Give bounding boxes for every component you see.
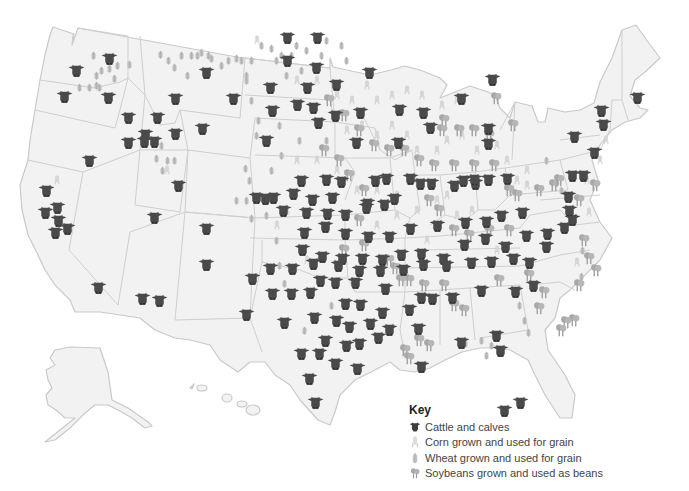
cattle-icon: [488, 327, 504, 343]
key-label-soybeans: Soybeans grown and used as beans: [425, 467, 603, 479]
soybean-icon: [510, 187, 526, 203]
cattle-icon: [347, 274, 363, 290]
cattle-icon: [444, 289, 460, 305]
cattle-icon: [194, 120, 210, 136]
cattle-icon: [198, 64, 214, 80]
cattle-icon: [484, 71, 500, 87]
corn-icon: [372, 92, 388, 108]
cattle-icon: [289, 96, 305, 112]
wheat-icon: [224, 52, 240, 68]
cattle-icon: [381, 228, 397, 244]
cattle-icon: [264, 285, 280, 301]
cattle-icon: [514, 204, 530, 220]
cattle-icon: [438, 257, 454, 273]
cattle-icon: [518, 227, 534, 243]
cattle-icon: [262, 79, 278, 95]
wheat-icon: [337, 37, 353, 53]
corn-icon: [522, 162, 538, 178]
cattle-icon: [415, 104, 431, 120]
cattle-icon: [264, 102, 280, 118]
cattle-icon: [279, 29, 295, 45]
cattle-icon: [337, 295, 353, 311]
wheat-icon: [247, 210, 263, 226]
cattle-icon: [317, 218, 333, 234]
cattle-icon: [298, 204, 314, 220]
map-key: Key Cattle and calves Corn grown and use…: [409, 403, 603, 481]
cattle-icon: [306, 309, 322, 325]
wheat-icon: [275, 117, 291, 133]
cattle-icon: [352, 104, 368, 120]
cattle-icon: [561, 202, 577, 218]
cattle-icon: [296, 224, 312, 240]
wheat-icon: [409, 451, 421, 465]
cattle-icon: [480, 171, 496, 187]
cattle-icon: [480, 135, 496, 151]
soybean-icon: [489, 90, 505, 106]
soybean-icon: [589, 262, 605, 278]
cattle-icon: [402, 220, 418, 236]
cattle-icon: [276, 314, 292, 330]
corn-icon: [502, 152, 518, 168]
cattle-icon: [483, 253, 499, 269]
cattle-icon: [566, 128, 582, 144]
key-title: Key: [409, 403, 603, 417]
cattle-icon: [429, 217, 445, 233]
cattle-icon: [463, 254, 479, 270]
cattle-icon: [262, 260, 278, 276]
cattle-icon: [360, 228, 376, 244]
cattle-icon: [477, 230, 493, 246]
cattle-icon: [327, 274, 343, 290]
wheat-icon: [242, 72, 258, 88]
key-item-cattle: Cattle and calves: [409, 419, 603, 435]
cattle-icon: [352, 296, 368, 312]
wheat-icon: [267, 162, 283, 178]
cattle-icon: [47, 224, 63, 240]
cattle-icon: [521, 254, 537, 270]
cattle-icon: [422, 119, 438, 135]
cattle-icon: [120, 134, 136, 150]
soybean-icon: [332, 152, 348, 168]
cattle-icon: [493, 207, 509, 223]
cattle-icon: [409, 420, 421, 434]
cattle-icon: [333, 173, 349, 189]
soybean-icon: [317, 142, 333, 158]
cattle-icon: [299, 79, 315, 95]
wheat-icon: [272, 232, 288, 248]
cattle-icon: [575, 167, 591, 183]
cattle-icon: [134, 290, 150, 306]
corn-icon: [402, 82, 418, 98]
cattle-icon: [167, 90, 183, 106]
soybean-icon: [452, 122, 468, 138]
wheat-icon: [241, 160, 257, 176]
key-label-corn: Corn grown and used for grain: [425, 436, 574, 448]
cattle-icon: [312, 272, 328, 288]
cattle-icon: [225, 90, 241, 106]
key-item-soybeans: Soybeans grown and used as beans: [409, 466, 603, 482]
cattle-icon: [310, 114, 326, 130]
cattle-icon: [328, 76, 344, 92]
cattle-icon: [324, 189, 340, 205]
soybean-icon: [409, 466, 421, 480]
cattle-icon: [586, 144, 602, 160]
cattle-icon: [395, 261, 411, 277]
cattle-icon: [453, 90, 469, 106]
cattle-icon: [308, 59, 324, 75]
cattle-icon: [318, 171, 334, 187]
soybean-icon: [532, 182, 548, 198]
cattle-icon: [284, 260, 300, 276]
key-label-cattle: Cattle and calves: [425, 421, 509, 433]
cattle-icon: [538, 238, 554, 254]
cattle-icon: [283, 285, 299, 301]
cattle-icon: [393, 246, 409, 262]
wheat-icon: [183, 67, 199, 83]
cattle-icon: [100, 89, 116, 105]
cattle-icon: [376, 196, 392, 212]
cattle-icon: [423, 175, 439, 191]
cattle-icon: [377, 280, 393, 296]
cattle-icon: [629, 89, 645, 105]
cattle-icon: [330, 257, 346, 273]
cattle-icon: [151, 292, 167, 308]
cattle-icon: [305, 255, 321, 271]
wheat-icon: [125, 56, 141, 72]
cattle-icon: [478, 213, 494, 229]
